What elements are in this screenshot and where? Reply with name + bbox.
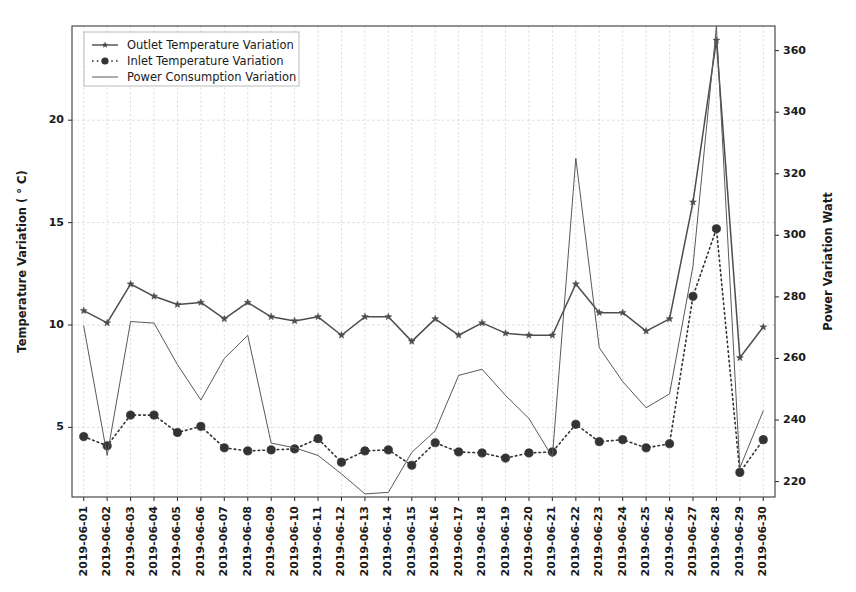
series-2 [80, 225, 768, 477]
data-point-marker [501, 454, 509, 462]
x-axis-tick-label: 2019-06-15 [405, 506, 418, 576]
x-axis-tick-label: 2019-06-04 [147, 506, 160, 577]
x-axis-tick-label: 2019-06-25 [639, 506, 652, 576]
x-axis-tick-label: 2019-06-20 [522, 506, 535, 577]
x-axis-tick-label: 2019-06-10 [288, 506, 301, 577]
data-point-marker [712, 225, 720, 233]
x-axis-tick-label: 2019-06-30 [756, 506, 769, 577]
data-point-marker [595, 438, 603, 446]
y2-axis-tick-label: 340 [783, 105, 806, 118]
data-point-marker [619, 436, 627, 444]
chart-legend: Outlet Temperature VariationInlet Temper… [84, 32, 299, 86]
x-axis-tick-label: 2019-06-29 [733, 506, 746, 576]
series-3 [84, 26, 764, 494]
data-point-marker [197, 422, 205, 430]
x-axis-tick-label: 2019-06-26 [663, 506, 676, 577]
x-axis-tick-label: 2019-06-22 [569, 506, 582, 576]
data-point-marker [759, 436, 767, 444]
data-point-marker [244, 447, 252, 455]
x-axis-tick-label: 2019-06-16 [428, 506, 441, 577]
x-axis-tick-label: 2019-06-05 [170, 506, 183, 576]
x-axis-tick-label: 2019-06-19 [499, 506, 512, 576]
data-point-marker [525, 449, 533, 457]
x-axis-tick-label: 2019-06-17 [452, 506, 465, 576]
data-point-marker [268, 313, 275, 320]
x-axis-tick-label: 2019-06-03 [124, 506, 137, 576]
data-point-marker [384, 446, 392, 454]
x-axis-tick-label: 2019-06-18 [475, 506, 488, 576]
x-axis-tick-label: 2019-06-21 [545, 506, 558, 576]
series-layer [80, 26, 768, 494]
data-point-marker [455, 332, 462, 339]
data-point-marker [408, 461, 416, 469]
data-point-marker [665, 440, 673, 448]
series-polyline [84, 229, 764, 473]
data-point-marker [150, 411, 158, 419]
chart-canvas: 51015202202402602803003203403602019-06-0… [0, 0, 856, 592]
legend-circle-marker-icon [101, 57, 108, 64]
series-polyline [84, 40, 764, 357]
x-axis-tick-label: 2019-06-14 [381, 506, 394, 577]
y-axis-tick-label: 20 [49, 113, 65, 126]
data-point-marker [267, 446, 275, 454]
x-axis-tick-label: 2019-06-24 [616, 506, 629, 577]
data-point-marker [126, 411, 134, 419]
data-point-marker [151, 293, 158, 300]
x-axis-tick-label: 2019-06-13 [358, 506, 371, 576]
series-polyline [84, 26, 764, 494]
y-axis-title: Temperature Variation ( ° C) [15, 170, 29, 352]
data-point-marker [526, 332, 533, 339]
y-axis-tick-label: 5 [56, 420, 64, 433]
data-point-marker [174, 301, 181, 308]
data-point-marker [173, 428, 181, 436]
data-point-marker [220, 444, 228, 452]
x-axis-tick-label: 2019-06-11 [311, 506, 324, 576]
y2-axis-tick-label: 240 [783, 413, 806, 426]
data-point-marker [642, 444, 650, 452]
data-point-marker [549, 332, 556, 339]
data-point-marker [455, 448, 463, 456]
y-axis-tick-label: 15 [49, 216, 64, 229]
data-point-marker [314, 435, 322, 443]
y-axis-tick-label: 10 [49, 318, 65, 331]
x-axis-tick-label: 2019-06-02 [100, 506, 113, 576]
y2-axis-tick-label: 260 [783, 351, 806, 364]
data-point-marker [572, 420, 580, 428]
x-axis-tick-label: 2019-06-01 [77, 506, 90, 576]
data-point-marker [736, 468, 744, 476]
grid-layer [72, 26, 775, 497]
data-point-marker [361, 447, 369, 455]
data-point-marker [221, 315, 228, 322]
x-axis-tick-label: 2019-06-06 [194, 506, 207, 577]
y2-axis-title: Power Variation Watt [821, 192, 835, 331]
x-axis-tick-label: 2019-06-27 [686, 506, 699, 576]
x-axis-tick-label: 2019-06-08 [241, 506, 254, 576]
legend-label: Outlet Temperature Variation [127, 38, 294, 52]
data-point-marker [478, 449, 486, 457]
x-axis-tick-label: 2019-06-12 [334, 506, 347, 576]
y2-axis-tick-label: 300 [783, 228, 806, 241]
x-axis-tick-label: 2019-06-28 [709, 506, 722, 576]
y2-axis-tick-label: 320 [783, 167, 806, 180]
y2-axis-tick-label: 220 [783, 475, 806, 488]
x-axis-tick-label: 2019-06-09 [264, 506, 277, 576]
data-point-marker [689, 292, 697, 300]
x-axis-tick-label: 2019-06-23 [592, 506, 605, 576]
legend-label: Inlet Temperature Variation [127, 54, 284, 68]
legend-label: Power Consumption Variation [127, 70, 296, 84]
data-point-marker [80, 432, 88, 440]
x-axis-tick-label: 2019-06-07 [217, 506, 230, 576]
data-point-marker [431, 439, 439, 447]
y2-axis-tick-label: 360 [783, 44, 806, 57]
data-point-marker [103, 442, 111, 450]
chart-figure: 51015202202402602803003203403602019-06-0… [0, 0, 856, 592]
data-point-marker [337, 458, 345, 466]
y2-axis-tick-label: 280 [783, 290, 806, 303]
